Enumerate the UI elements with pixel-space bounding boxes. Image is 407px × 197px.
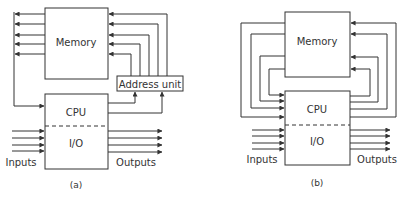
memory-label-a: Memory <box>56 37 97 48</box>
cpu-label-b: CPU <box>307 104 327 115</box>
address-unit-label-a: Address unit <box>119 79 181 90</box>
outputs-label-b: Outputs <box>357 154 397 165</box>
cpu-io-box-b <box>285 91 350 165</box>
inputs-label-b: Inputs <box>246 154 277 165</box>
memory-label-b: Memory <box>297 36 338 47</box>
cpu-label-a: CPU <box>66 107 86 118</box>
caption-b: (b) <box>311 178 324 188</box>
io-label-a: I/O <box>69 138 83 149</box>
architecture-diagrams: Memory Address unit CPU I/O Inputs Outpu… <box>0 0 407 197</box>
cpu-io-box-a <box>45 94 108 169</box>
inputs-label-a: Inputs <box>5 157 36 168</box>
outputs-label-a: Outputs <box>116 157 156 168</box>
io-label-b: I/O <box>310 136 324 147</box>
caption-a: (a) <box>70 180 83 190</box>
